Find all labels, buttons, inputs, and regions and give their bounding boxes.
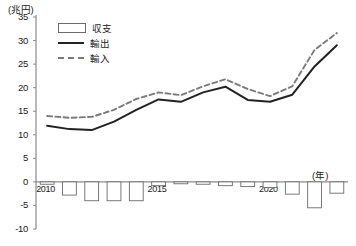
bar-balance-2010 <box>40 182 54 184</box>
bar-balance-2019 <box>241 182 255 187</box>
bar-balance-2014 <box>129 182 143 201</box>
chart-plot-area <box>0 0 356 246</box>
legend-item-exports: 輸出 <box>58 35 112 50</box>
bar-balance-2023 <box>330 182 344 193</box>
trade-balance-chart: (兆円) 35302520151050-5-10 201020152020 (年… <box>0 0 356 246</box>
bar-balance-2011 <box>63 182 77 195</box>
bar-balance-2020 <box>263 182 277 188</box>
chart-legend: 収支 輸出 輸入 <box>58 20 112 65</box>
bar-balance-2017 <box>196 182 210 184</box>
bar-balance-2015 <box>152 182 166 186</box>
legend-label-exports: 輸出 <box>90 36 110 50</box>
legend-label-imports: 輸入 <box>90 51 110 65</box>
legend-item-balance: 収支 <box>58 20 112 35</box>
legend-swatch-dashed-line-icon <box>58 53 84 63</box>
bar-balance-2013 <box>107 182 121 201</box>
bar-balance-2021 <box>285 182 299 194</box>
bar-balance-2018 <box>219 182 233 186</box>
legend-label-balance: 収支 <box>92 21 112 35</box>
legend-swatch-bar-icon <box>58 23 86 33</box>
bar-balance-2022 <box>308 182 322 208</box>
legend-item-imports: 輸入 <box>58 50 112 65</box>
bar-balance-2012 <box>85 182 99 201</box>
bar-balance-2016 <box>174 182 188 184</box>
legend-swatch-solid-line-icon <box>58 38 84 48</box>
